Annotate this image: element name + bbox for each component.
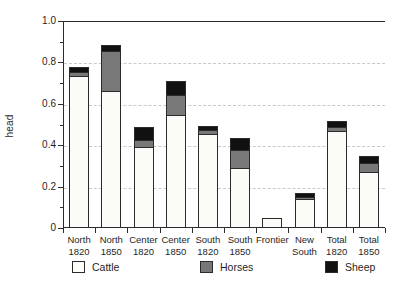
bar-center-1850 xyxy=(166,81,186,228)
bar-segment-cattle xyxy=(262,218,282,228)
x-axis-label-line: Total xyxy=(349,234,389,246)
bar-center-1820 xyxy=(134,127,154,228)
bar-segment-cattle xyxy=(69,76,89,228)
legend-label: Cattle xyxy=(92,261,119,273)
y-tick-label: 0.8 xyxy=(22,56,56,67)
x-tick xyxy=(288,228,289,233)
y-tick-label: 0.2 xyxy=(22,181,56,192)
legend-item-sheep[interactable]: Sheep xyxy=(325,261,375,273)
chart-figure: head 00.20.40.60.81.0 North1820North1850… xyxy=(0,0,403,286)
x-tick xyxy=(224,228,225,233)
bar-segment-cattle xyxy=(166,115,186,228)
bar-segment-sheep xyxy=(134,127,154,140)
x-tick xyxy=(192,228,193,233)
bar-new-south xyxy=(295,193,315,228)
bar-south-1850 xyxy=(230,138,250,228)
bar-segment-horses xyxy=(101,51,121,91)
bar-segment-sheep xyxy=(230,138,250,150)
bar-segment-sheep xyxy=(359,156,379,163)
x-tick xyxy=(160,228,161,233)
y-tick-label: 0.4 xyxy=(22,139,56,150)
x-tick xyxy=(385,228,386,233)
legend-swatch-horses xyxy=(200,261,213,273)
bar-north-1850 xyxy=(101,45,121,228)
y-axis-ticks: 00.20.40.60.81.0 xyxy=(22,21,63,228)
bar-north-1820 xyxy=(69,67,89,228)
y-tick-label: 0 xyxy=(22,222,56,233)
x-tick xyxy=(95,228,96,233)
bar-segment-cattle xyxy=(359,172,379,228)
bar-segment-cattle xyxy=(230,168,250,228)
chart-legend: CattleHorsesSheep xyxy=(60,261,390,281)
bar-south-1820 xyxy=(198,126,218,228)
bars-layer xyxy=(63,21,385,228)
bar-total-1850 xyxy=(359,156,379,228)
y-axis-title: head xyxy=(4,96,15,156)
legend-label: Sheep xyxy=(345,261,375,273)
bar-segment-cattle xyxy=(327,131,347,228)
bar-total-1820 xyxy=(327,121,347,228)
legend-swatch-cattle xyxy=(72,261,85,273)
bar-segment-cattle xyxy=(101,91,121,228)
x-axis-label-line: 1850 xyxy=(349,246,389,258)
x-tick xyxy=(321,228,322,233)
legend-item-horses[interactable]: Horses xyxy=(200,261,253,273)
x-axis-labels: North1820North1850Center1820Center1850So… xyxy=(63,234,385,260)
x-tick xyxy=(63,228,64,233)
bar-segment-cattle xyxy=(134,147,154,228)
x-tick xyxy=(256,228,257,233)
bar-segment-horses xyxy=(166,95,186,116)
bar-segment-horses xyxy=(134,140,154,147)
y-tick-label: 0.6 xyxy=(22,98,56,109)
legend-item-cattle[interactable]: Cattle xyxy=(72,261,119,273)
x-axis-label-line: 1850 xyxy=(220,246,260,258)
legend-swatch-sheep xyxy=(325,261,338,273)
bar-segment-horses xyxy=(230,150,250,168)
bar-segment-horses xyxy=(359,163,379,172)
legend-label: Horses xyxy=(220,261,253,273)
x-axis-label: Total1850 xyxy=(349,234,389,257)
bar-frontier xyxy=(262,218,282,228)
y-tick-label: 1.0 xyxy=(22,15,56,26)
bar-segment-cattle xyxy=(198,134,218,228)
x-tick xyxy=(127,228,128,233)
x-tick xyxy=(353,228,354,233)
bar-segment-cattle xyxy=(295,199,315,228)
bar-segment-sheep xyxy=(166,81,186,94)
